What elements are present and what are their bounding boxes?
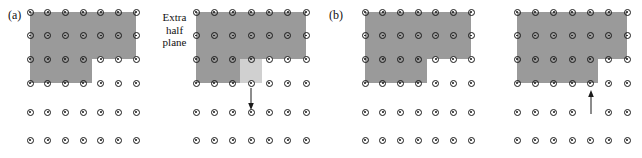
atom xyxy=(397,137,404,144)
atom xyxy=(266,9,273,16)
atom xyxy=(211,56,218,63)
atom xyxy=(415,80,422,87)
panel-a: (a) xyxy=(0,0,321,158)
atom xyxy=(44,56,51,63)
atom xyxy=(605,9,612,16)
atom xyxy=(397,9,404,16)
atom xyxy=(193,9,200,16)
atom xyxy=(514,9,521,16)
atom xyxy=(266,32,273,39)
atom xyxy=(415,109,422,116)
atom xyxy=(193,137,200,144)
atom xyxy=(115,9,122,16)
atom xyxy=(303,9,310,16)
panel-b: (b) xyxy=(321,0,642,158)
atom xyxy=(362,9,369,16)
atom xyxy=(624,32,631,39)
atom xyxy=(397,109,404,116)
atom xyxy=(379,80,386,87)
lattice-a-left xyxy=(22,0,147,158)
atom xyxy=(266,109,273,116)
atom xyxy=(80,9,87,16)
atom xyxy=(569,80,576,87)
atom xyxy=(605,109,612,116)
lattice-a-right xyxy=(188,0,316,158)
atom xyxy=(532,80,539,87)
atom xyxy=(284,109,291,116)
atom xyxy=(248,80,255,87)
atom xyxy=(44,9,51,16)
atom xyxy=(379,137,386,144)
atom xyxy=(211,80,218,87)
atom xyxy=(587,9,594,16)
atom xyxy=(62,137,69,144)
atom xyxy=(133,109,140,116)
atom xyxy=(450,109,457,116)
atom xyxy=(62,56,69,63)
panel-a-label: (a) xyxy=(8,8,21,23)
atom xyxy=(80,80,87,87)
atom xyxy=(284,9,291,16)
atom xyxy=(266,80,273,87)
atom xyxy=(133,32,140,39)
atom xyxy=(27,32,34,39)
atom xyxy=(193,32,200,39)
atom xyxy=(450,32,457,39)
atom xyxy=(569,9,576,16)
atom xyxy=(605,56,612,63)
atom xyxy=(211,9,218,16)
atom xyxy=(115,80,122,87)
atom xyxy=(362,56,369,63)
atom xyxy=(362,32,369,39)
atom xyxy=(415,137,422,144)
atom xyxy=(379,9,386,16)
atom xyxy=(248,137,255,144)
atom xyxy=(62,80,69,87)
atom xyxy=(605,80,612,87)
atom xyxy=(44,109,51,116)
atom xyxy=(266,137,273,144)
atom xyxy=(284,56,291,63)
displacement-arrow-down xyxy=(246,88,256,111)
atom xyxy=(44,137,51,144)
atom xyxy=(624,137,631,144)
atom xyxy=(62,32,69,39)
atom xyxy=(193,109,200,116)
atom xyxy=(97,9,104,16)
atom xyxy=(133,137,140,144)
atom xyxy=(80,32,87,39)
atom xyxy=(97,109,104,116)
atom xyxy=(587,32,594,39)
atom xyxy=(624,80,631,87)
atom xyxy=(415,9,422,16)
atom xyxy=(468,137,475,144)
atom xyxy=(605,137,612,144)
atom xyxy=(468,80,475,87)
atom xyxy=(62,109,69,116)
atom xyxy=(450,80,457,87)
lattice-b-right xyxy=(509,0,637,158)
atom xyxy=(514,137,521,144)
atom xyxy=(587,56,594,63)
atom xyxy=(303,109,310,116)
atom xyxy=(397,56,404,63)
atom xyxy=(379,109,386,116)
atom xyxy=(211,109,218,116)
atom xyxy=(450,137,457,144)
atom xyxy=(450,9,457,16)
atom xyxy=(468,9,475,16)
atom xyxy=(569,109,576,116)
atom xyxy=(97,137,104,144)
atom xyxy=(229,56,236,63)
atom xyxy=(303,32,310,39)
atom xyxy=(397,32,404,39)
atom xyxy=(379,56,386,63)
atom xyxy=(532,109,539,116)
atom xyxy=(229,109,236,116)
atom xyxy=(115,109,122,116)
atom xyxy=(284,137,291,144)
atom xyxy=(115,137,122,144)
atom xyxy=(193,80,200,87)
atom xyxy=(133,56,140,63)
atom xyxy=(550,9,557,16)
